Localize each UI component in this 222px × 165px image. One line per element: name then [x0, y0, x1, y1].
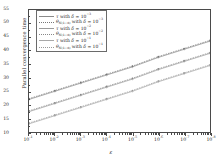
x-tick-mark	[133, 133, 134, 136]
y-tick-mark	[28, 105, 31, 106]
y-axis-title: Parallel convergence time	[21, 0, 27, 115]
x-minor-tick-mark	[99, 133, 100, 135]
series-marker	[54, 102, 56, 104]
x-minor-tick-mark	[46, 133, 47, 135]
chart-legend: τ with δ = 10−3θN(1−d) with δ = 10−3τ wi…	[36, 10, 107, 52]
y-minor-tick-mark	[28, 43, 30, 44]
x-minor-tick-mark	[44, 133, 45, 135]
x-minor-tick-mark	[96, 133, 97, 135]
y-minor-tick-mark	[28, 99, 30, 100]
legend-line-swatch	[39, 37, 54, 43]
x-tick-mark	[54, 133, 55, 136]
x-tick-label: 10-6	[146, 136, 172, 142]
x-minor-tick-mark	[193, 133, 194, 135]
legend-item[interactable]: θN(1−d) with δ = 10−2	[39, 31, 103, 37]
y-tick-mark	[28, 92, 31, 93]
x-tick-mark	[211, 133, 212, 136]
y-tick-label: 45	[0, 34, 9, 39]
y-minor-tick-mark	[28, 57, 30, 58]
x-tick-label: 10-1	[15, 136, 41, 142]
x-tick-label: 10-3	[67, 136, 93, 142]
y-tick-mark	[28, 50, 31, 51]
x-tick-mark	[80, 133, 81, 136]
x-tick-mark	[159, 133, 160, 136]
x-minor-tick-mark	[72, 133, 73, 135]
series-marker	[80, 82, 82, 84]
series-line	[29, 65, 210, 123]
x-minor-tick-mark	[148, 133, 149, 135]
series-marker	[80, 94, 82, 96]
x-minor-tick-mark	[67, 133, 68, 135]
y-minor-tick-mark	[28, 85, 30, 86]
series-marker	[157, 56, 159, 58]
x-minor-tick-mark	[70, 133, 71, 135]
x-tick-label: 10-5	[120, 136, 146, 142]
x-tick-mark	[185, 133, 186, 136]
y-tick-label: 10	[0, 131, 9, 136]
legend-dotted-swatch	[39, 19, 54, 25]
series-marker	[132, 77, 134, 79]
x-axis-title: ε	[0, 149, 222, 155]
x-minor-tick-mark	[93, 133, 94, 135]
series-marker	[106, 86, 108, 88]
x-minor-tick-mark	[201, 133, 202, 135]
legend-line-swatch	[39, 25, 54, 31]
y-tick-label: 25	[0, 89, 9, 94]
y-tick-mark	[28, 64, 31, 65]
series-marker	[106, 98, 108, 100]
x-minor-tick-mark	[114, 133, 115, 135]
x-minor-tick-mark	[177, 133, 178, 135]
series-line	[29, 53, 210, 111]
y-minor-tick-mark	[28, 30, 30, 31]
series-marker	[80, 106, 82, 108]
y-tick-label: 20	[0, 103, 9, 108]
x-minor-tick-mark	[125, 133, 126, 135]
x-tick-label: 10-8	[198, 136, 222, 142]
x-minor-tick-mark	[119, 133, 120, 135]
x-minor-tick-mark	[62, 133, 63, 135]
x-minor-tick-mark	[140, 133, 141, 135]
series-marker	[183, 48, 185, 50]
series-marker	[183, 60, 185, 62]
series-marker	[157, 68, 159, 70]
legend-item[interactable]: θN(1−d) with δ = 10−1	[39, 43, 103, 49]
y-tick-label: 15	[0, 117, 9, 122]
series-marker	[54, 90, 56, 92]
x-tick-label: 10-2	[41, 136, 67, 142]
y-tick-label: 55	[0, 7, 9, 12]
x-tick-label: 10-4	[93, 136, 119, 142]
y-tick-label: 30	[0, 76, 9, 81]
x-minor-tick-mark	[197, 133, 198, 135]
series-marker	[106, 73, 108, 75]
y-minor-tick-mark	[28, 71, 30, 72]
legend-label: θN(1−d) with δ = 10−1	[56, 43, 103, 50]
x-minor-tick-mark	[88, 133, 89, 135]
x-minor-tick-mark	[36, 133, 37, 135]
legend-dotted-swatch	[39, 44, 54, 50]
y-minor-tick-mark	[28, 126, 30, 127]
series-marker	[183, 72, 185, 74]
series-marker	[157, 80, 159, 82]
x-minor-tick-mark	[151, 133, 152, 135]
x-minor-tick-mark	[167, 133, 168, 135]
x-minor-tick-mark	[174, 133, 175, 135]
x-minor-tick-mark	[40, 133, 41, 135]
legend-line-swatch	[39, 13, 54, 19]
x-tick-mark	[28, 133, 29, 136]
series-marker	[54, 114, 56, 116]
x-minor-tick-mark	[145, 133, 146, 135]
y-tick-mark	[28, 9, 31, 10]
x-minor-tick-mark	[203, 133, 204, 135]
y-tick-mark	[28, 37, 31, 38]
y-tick-label: 35	[0, 62, 9, 67]
legend-dotted-swatch	[39, 31, 54, 37]
x-tick-mark	[106, 133, 107, 136]
y-minor-tick-mark	[28, 16, 30, 17]
legend-item[interactable]: θN(1−d) with δ = 10−3	[39, 19, 103, 25]
x-minor-tick-mark	[122, 133, 123, 135]
y-tick-label: 50	[0, 20, 9, 25]
series-marker	[132, 90, 134, 92]
y-tick-mark	[28, 78, 31, 79]
y-tick-mark	[28, 119, 31, 120]
series-marker	[132, 65, 134, 67]
